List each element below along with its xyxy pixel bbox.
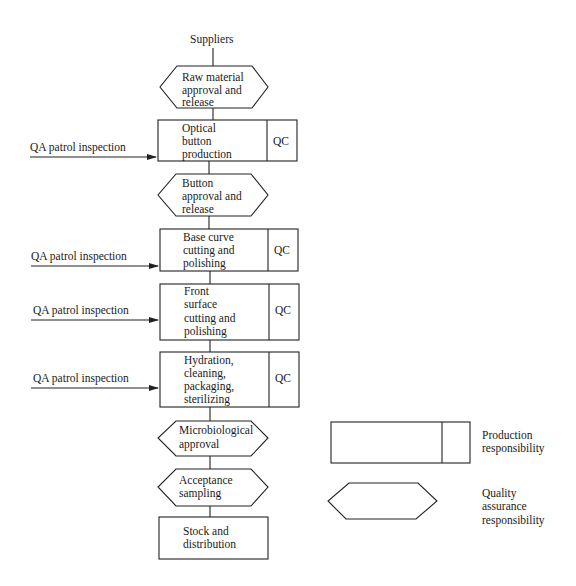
step-text: release [182,203,214,215]
qa-patrol-inspection-label: QA patrol inspection [33,304,129,317]
step-text: cutting and [184,312,236,325]
step-text: cutting and [183,244,235,257]
legend-text: Production [482,429,533,441]
step-front-surface: Front surface cutting and polishing QC [160,284,299,340]
step-optical-button-production: Optical button production QC [158,120,297,161]
step-stock-distribution: Stock and distribution [159,517,268,559]
step-text: Button [182,177,214,189]
legend-text: assurance [482,500,527,512]
qc-label: QC [273,135,289,147]
legend-qa: Quality assurance responsibility [328,483,545,527]
suppliers-label: Suppliers [190,33,234,46]
step-text: packaging, [184,380,234,393]
step-text: release [182,96,214,108]
qc-label: QC [275,304,291,316]
step-button-approval: Button approval and release [158,174,268,216]
legend: Production responsibility Quality assura… [328,422,545,527]
qa-patrol-inspection-label: QA patrol inspection [30,141,126,154]
step-acceptance-sampling: Acceptance sampling [158,469,268,506]
step-text: polishing [183,257,226,270]
step-text: Microbiological [179,424,253,437]
step-text: approval [179,438,219,451]
step-text: button [182,135,212,147]
legend-text: responsibility [482,514,545,527]
legend-text: responsibility [482,442,545,455]
step-base-curve: Base curve cutting and polishing QC [160,229,298,271]
step-text: polishing [184,325,227,338]
qa-patrol-inspection-label: QA patrol inspection [33,372,129,385]
qc-label: QC [275,372,291,384]
step-text: production [182,148,232,161]
step-microbiological-approval: Microbiological approval [158,421,268,456]
legend-production-box [331,422,470,463]
step-text: Raw material [182,71,244,83]
qa-patrol-inspection-label: QA patrol inspection [31,250,127,263]
qa-flowchart: Suppliers Raw material approval and rele… [0,0,576,586]
step-hydration-packaging: Hydration, cleaning, packaging, steriliz… [160,352,299,407]
qc-label: QC [274,244,290,256]
step-text: sterilizing [184,393,230,406]
legend-production: Production responsibility [331,422,545,463]
step-text: distribution [183,538,236,550]
step-text: Base curve [183,231,234,243]
step-text: approval and [182,190,242,203]
step-text: Acceptance [179,474,233,487]
step-text: sampling [179,487,221,500]
step-text: Hydration, [184,354,234,367]
step-text: Front [184,285,210,297]
step-text: cleaning, [184,367,226,380]
step-text: surface [184,298,217,310]
step-text: Stock and [183,525,229,537]
step-raw-material-approval: Raw material approval and release [160,66,268,108]
legend-qa-hexagon [328,483,437,519]
legend-text: Quality [482,487,517,500]
step-text: Optical [182,122,216,135]
